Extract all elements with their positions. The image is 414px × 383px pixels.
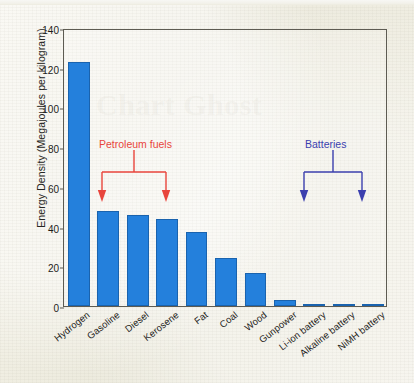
y-tick-label: 0 (53, 303, 59, 314)
bar-hydrogen[interactable] (68, 62, 90, 306)
x-tick-label-fat: Fat (192, 309, 210, 326)
y-tick-label: 40 (48, 223, 59, 234)
bar-wood[interactable] (245, 273, 267, 306)
y-tick-label: 80 (48, 144, 59, 155)
bar-gasoline[interactable] (97, 211, 119, 306)
chart-page: Chart Ghost Energy Density (Megajoules p… (0, 0, 414, 383)
annotation-label-petroleum-fuels: Petroleum fuels (99, 138, 172, 150)
x-tick-label-hydrogen: Hydrogen (52, 309, 92, 344)
bar-nimh-battery[interactable] (362, 304, 384, 306)
y-tick-label: 20 (48, 263, 59, 274)
plot-area: 020406080100120140 (63, 29, 387, 307)
bar-kerosene[interactable] (156, 219, 178, 306)
bar-li-ion-battery[interactable] (303, 304, 325, 306)
x-axis-labels: HydrogenGasolineDieselKeroseneFatCoalWoo… (63, 309, 387, 383)
y-tick-label: 60 (48, 183, 59, 194)
y-axis-title: Energy Density (Megajoules per kilogram) (35, 0, 47, 273)
bar-gunpower[interactable] (274, 300, 296, 306)
bars-container (64, 30, 386, 306)
bar-coal[interactable] (215, 258, 237, 306)
bar-diesel[interactable] (127, 215, 149, 306)
energy-density-bar-chart: Energy Density (Megajoules per kilogram)… (0, 0, 414, 383)
x-tick-label-gasoline: Gasoline (85, 309, 122, 341)
y-tick-label: 140 (42, 25, 59, 36)
y-tick-label: 100 (42, 104, 59, 115)
x-tick-label-coal: Coal (217, 309, 239, 330)
bar-fat[interactable] (186, 232, 208, 306)
y-tick-label: 120 (42, 64, 59, 75)
annotation-label-batteries: Batteries (305, 138, 346, 150)
bar-alkaline-battery[interactable] (333, 304, 355, 306)
